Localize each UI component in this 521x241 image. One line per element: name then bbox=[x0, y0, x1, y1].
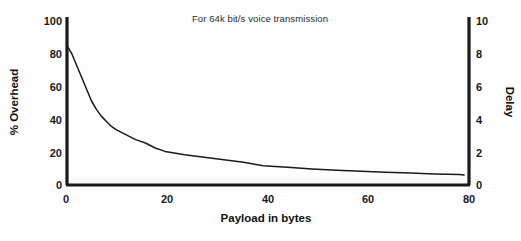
y-axis-right-tick-2: 2 bbox=[476, 147, 502, 159]
y-axis-right-tick-8: 8 bbox=[476, 48, 502, 60]
y-axis-left-tick-100: 100 bbox=[28, 15, 62, 27]
y-axis-left-tick-60: 60 bbox=[28, 81, 62, 93]
y-axis-right-tick-6: 6 bbox=[476, 81, 502, 93]
y-axis-left-title: % Overhead bbox=[8, 62, 20, 142]
y-axis-left-tick-20: 20 bbox=[28, 147, 62, 159]
y-axis-left-tick-0: 0 bbox=[28, 179, 62, 191]
y-axis-right-title: Delay bbox=[504, 62, 516, 142]
overhead-delay-curve bbox=[67, 46, 464, 175]
x-axis-tick-20: 20 bbox=[152, 193, 182, 205]
y-axis-left-tick-40: 40 bbox=[28, 114, 62, 126]
x-axis-tick-60: 60 bbox=[353, 193, 383, 205]
chart-title: For 64k bit/s voice transmission bbox=[140, 13, 380, 24]
x-axis-title: Payload in bytes bbox=[166, 212, 366, 224]
y-axis-right-tick-0: 0 bbox=[476, 179, 502, 191]
y-axis-right-tick-10: 10 bbox=[476, 15, 502, 27]
chart-figure: For 64k bit/s voice transmission 100 80 … bbox=[0, 0, 521, 241]
x-axis-tick-40: 40 bbox=[253, 193, 283, 205]
y-axis-left-tick-80: 80 bbox=[28, 48, 62, 60]
x-axis-tick-0: 0 bbox=[51, 193, 81, 205]
x-axis-tick-80: 80 bbox=[454, 193, 484, 205]
y-axis-right-tick-4: 4 bbox=[476, 114, 502, 126]
